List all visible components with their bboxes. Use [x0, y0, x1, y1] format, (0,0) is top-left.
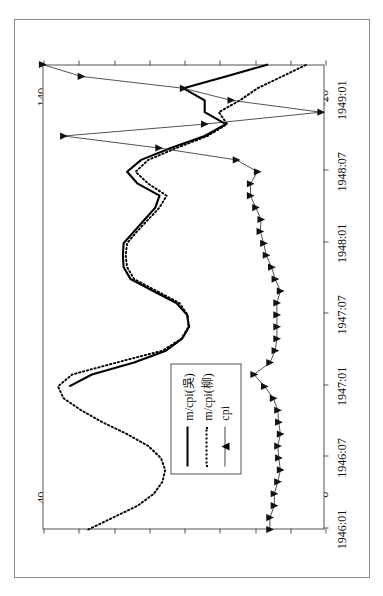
chart-legend: m/cpi(吳)m/cpi(柳)cpi	[170, 363, 241, 474]
y-tick-right	[325, 60, 326, 65]
series-marker-cpi	[262, 251, 270, 258]
x-axis-tick-label: 1947:07	[334, 274, 349, 354]
series-marker-cpi	[270, 490, 278, 497]
series-marker-cpi	[253, 168, 261, 175]
series-marker-cpi	[317, 108, 325, 115]
series-marker-cpi	[266, 513, 274, 520]
series-marker-cpi	[266, 358, 274, 365]
legend-line-sample	[186, 426, 188, 466]
legend-label: m/cpi(柳)	[197, 373, 215, 420]
series-marker-cpi	[274, 406, 282, 413]
series-marker-cpi	[155, 144, 163, 151]
chart-upright: 0510152025303540 -20020406080100120140 1…	[14, 19, 370, 578]
x-axis-tick-label: 1949:01	[334, 60, 349, 140]
series-marker-cpi	[250, 370, 258, 377]
series-marker-cpi	[271, 347, 279, 354]
legend-key-swatch	[181, 426, 193, 466]
series-marker-cpi	[271, 275, 279, 282]
series-path-mcpi	[69, 64, 268, 386]
series-marker-cpi	[260, 239, 268, 246]
x-axis-tick-label: 1948:01	[334, 203, 349, 283]
x-axis-tick-label: 1947:01	[334, 346, 349, 426]
legend-triangle-marker-icon	[221, 442, 229, 450]
rotated-chart-wrapper: 0510152025303540 -20020406080100120140 1…	[14, 19, 370, 578]
legend-line-sample	[205, 426, 207, 466]
series-marker-cpi	[276, 287, 284, 294]
series-marker-cpi	[268, 263, 276, 270]
y-tick-left	[325, 528, 326, 533]
legend-item: m/cpi(柳)	[196, 373, 215, 466]
legend-item: m/cpi(吳)	[177, 373, 196, 466]
legend-key-swatch	[219, 426, 231, 466]
series-marker-cpi	[246, 180, 254, 187]
x-axis-tick-label: 1946:01	[334, 489, 349, 569]
series-marker-cpi	[252, 203, 260, 210]
series-marker-cpi	[274, 442, 282, 449]
legend-key-swatch	[200, 426, 212, 466]
series-marker-cpi	[256, 227, 264, 234]
series-marker-cpi	[273, 299, 281, 306]
series-marker-cpi	[269, 394, 277, 401]
series-marker-cpi	[77, 72, 85, 79]
series-marker-cpi	[201, 120, 209, 127]
series-marker-cpi	[274, 478, 282, 485]
series-marker-cpi	[257, 215, 265, 222]
series-marker-cpi	[260, 382, 268, 389]
x-axis-tick-label: 1948:07	[334, 131, 349, 211]
x-axis-tick-label: 1946:07	[334, 417, 349, 497]
series-marker-cpi	[227, 96, 235, 103]
series-marker-cpi	[232, 156, 240, 163]
legend-item: cpi	[215, 373, 234, 466]
series-marker-cpi	[60, 132, 68, 139]
legend-label: cpi	[217, 405, 232, 420]
legend-label: m/cpi(吳)	[178, 373, 196, 420]
figure-page: 0510152025303540 -20020406080100120140 1…	[0, 0, 383, 596]
